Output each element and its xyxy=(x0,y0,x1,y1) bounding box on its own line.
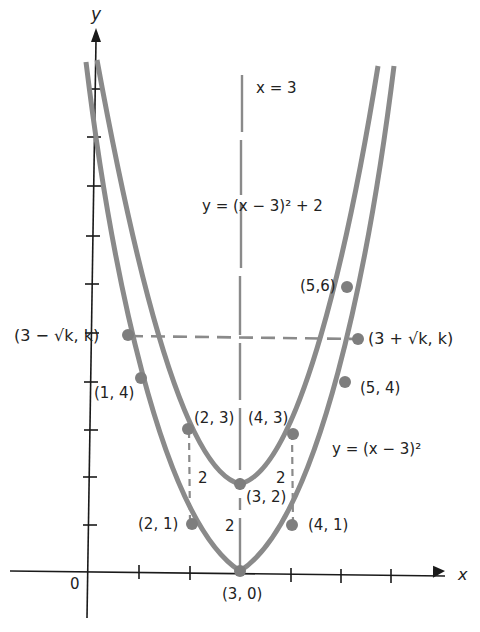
point-5-4 xyxy=(339,376,351,388)
label-point-3-2: (3, 2) xyxy=(246,490,286,505)
lower-curve-equation: y = (x − 3)² xyxy=(332,442,421,457)
k-level-dashed-line xyxy=(129,336,358,339)
origin-label: 0 xyxy=(70,577,80,592)
label-point-left-k: (3 − √k, k) xyxy=(14,328,99,344)
shift-label-left: 2 xyxy=(198,471,208,486)
label-point-5-6: (5,6) xyxy=(300,279,336,294)
point-2-3 xyxy=(182,423,194,435)
label-point-4-1: (4, 1) xyxy=(308,518,348,533)
y-axis-arrow-icon xyxy=(91,28,101,42)
upper-curve-equation: y = (x − 3)² + 2 xyxy=(202,199,323,214)
axis-of-symmetry-label: x = 3 xyxy=(256,81,297,96)
point-left-k xyxy=(122,329,134,341)
shift-label-right: 2 xyxy=(276,471,286,486)
parabola-diagram xyxy=(0,0,480,632)
label-point-4-3: (4, 3) xyxy=(248,411,288,426)
x-axis-label: x xyxy=(458,567,467,583)
curve-upper-parabola xyxy=(97,60,378,484)
point-right-k xyxy=(352,333,364,345)
label-point-5-4: (5, 4) xyxy=(360,381,400,396)
point-1-4 xyxy=(135,372,147,384)
y-axis-label: y xyxy=(91,6,101,23)
axis-of-symmetry-line xyxy=(240,75,242,572)
point-2-1 xyxy=(186,518,198,530)
shift-connector-right xyxy=(292,433,293,524)
point-5-6 xyxy=(341,281,353,293)
label-point-2-1: (2, 1) xyxy=(138,517,178,532)
point-3-2 xyxy=(234,478,246,490)
label-point-1-4: (1, 4) xyxy=(94,386,134,401)
label-point-right-k: (3 + √k, k) xyxy=(368,331,453,347)
point-3-0 xyxy=(234,565,246,577)
label-point-2-3: (2, 3) xyxy=(194,411,234,426)
point-4-3 xyxy=(287,428,299,440)
label-point-3-0: (3, 0) xyxy=(222,587,262,602)
point-4-1 xyxy=(286,519,298,531)
shift-label-center: 2 xyxy=(225,519,235,534)
